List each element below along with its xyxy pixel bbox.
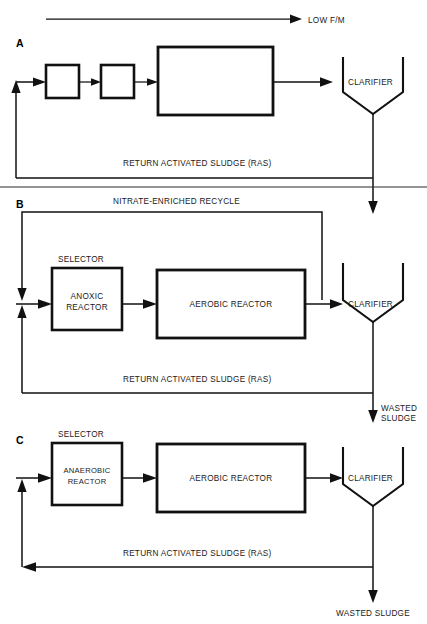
panel-c-clarifier-feed-arrow bbox=[305, 473, 343, 482]
panel-a-ras-label: RETURN ACTIVATED SLUDGE (RAS) bbox=[123, 159, 271, 168]
panel-c-selector-label: SELECTOR bbox=[58, 430, 104, 439]
panel-c-wasted-sludge-arrow bbox=[368, 567, 378, 603]
panel-b-wasted-sludge-label-line2: SLUDGE bbox=[381, 414, 416, 423]
panel-b-clarifier-label: CLARIFIER bbox=[348, 300, 393, 309]
panel-b-ras-return-arrow bbox=[17, 305, 26, 393]
panel-c-clarifier bbox=[343, 447, 403, 567]
panel-c-aerobic-reactor-label: AEROBIC REACTOR bbox=[190, 474, 273, 483]
panel-b-wasted-sludge-label-line1: WASTED bbox=[381, 404, 417, 413]
panel-b-wasted-sludge-arrow bbox=[368, 393, 378, 423]
panel-letter-a: A bbox=[16, 37, 24, 49]
panel-b-recycle-label: NITRATE-ENRICHED RECYCLE bbox=[113, 197, 240, 206]
panel-a-small-box-2 bbox=[101, 65, 134, 98]
panel-b-clarifier bbox=[343, 263, 403, 393]
panel-c-wasted-sludge-label: WASTED SLUDGE bbox=[336, 609, 410, 618]
panel-letter-c: C bbox=[16, 434, 24, 446]
low-fm-gradient-arrow bbox=[46, 15, 302, 24]
panel-c-anaerobic-reactor-label-line2: REACTOR bbox=[68, 477, 107, 486]
panel-c-interstage-arrow bbox=[122, 473, 157, 482]
panel-c-anaerobic-reactor-label-line1: ANAEROBIC bbox=[64, 466, 111, 475]
panel-a-waste-drop bbox=[368, 178, 378, 214]
panel-b-interstage-arrow bbox=[122, 299, 157, 308]
low-fm-label: LOW F/M bbox=[308, 16, 345, 25]
panel-a-clarifier bbox=[343, 57, 403, 178]
panel-b-anoxic-reactor-label-line1: ANOXIC bbox=[71, 292, 104, 301]
panel-b-aerobic-reactor-label: AEROBIC REACTOR bbox=[190, 300, 273, 309]
panel-a-flow bbox=[16, 47, 333, 115]
panel-b-clarifier-feed-arrow bbox=[305, 299, 343, 308]
panel-c-ras-line bbox=[22, 562, 373, 571]
process-flow-diagram: LOW F/M A CLARIFIER RETURN ACTIVATED SLU… bbox=[0, 0, 427, 624]
panel-b-ras-label: RETURN ACTIVATED SLUDGE (RAS) bbox=[123, 375, 271, 384]
panel-letter-b: B bbox=[16, 198, 24, 210]
panel-b-selector-label: SELECTOR bbox=[58, 255, 104, 264]
panel-a-clarifier-label: CLARIFIER bbox=[348, 78, 393, 87]
panel-c-clarifier-label: CLARIFIER bbox=[348, 474, 393, 483]
panel-a-aeration-basin bbox=[158, 47, 273, 115]
panel-c-ras-return-arrow bbox=[17, 479, 26, 567]
panel-a-small-box-1 bbox=[46, 65, 79, 98]
panel-c-ras-label: RETURN ACTIVATED SLUDGE (RAS) bbox=[123, 549, 271, 558]
panel-b-anoxic-reactor-label-line2: REACTOR bbox=[66, 303, 108, 312]
